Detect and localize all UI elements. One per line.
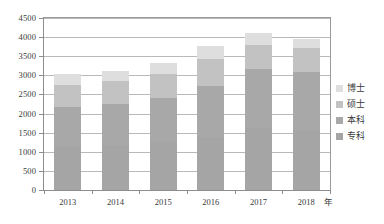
x-axis-unit-label: 年 (324, 197, 333, 207)
y-tick-label-3500: 3500 (19, 52, 36, 61)
legend-swatch-icon-硕士 (336, 101, 343, 108)
y-tick-label-1000: 1000 (19, 147, 36, 156)
legend-swatch-icon-本科 (336, 117, 343, 124)
x-tick-mark-1 (92, 190, 93, 194)
legend-label-博士: 博士 (347, 83, 365, 93)
x-tick-mark-2 (139, 190, 140, 194)
bar-group-2018[interactable] (293, 39, 320, 190)
y-tick-mark-2500 (39, 94, 43, 95)
y-tick-label-4000: 4000 (19, 33, 36, 42)
bar-segment-专科-2015[interactable] (150, 142, 177, 190)
x-tick-label-2013: 2013 (59, 197, 76, 207)
bar-segment-硕士-2014[interactable] (102, 81, 129, 103)
y-tick-mark-2000 (39, 114, 43, 115)
bar-segment-博士-2013[interactable] (54, 74, 81, 85)
x-tick-mark-5 (282, 190, 283, 194)
y-tick-label-2500: 2500 (19, 90, 36, 99)
bar-segment-专科-2018[interactable] (293, 130, 320, 190)
y-tick-mark-500 (39, 171, 43, 172)
bar-group-2014[interactable] (102, 71, 129, 190)
bar-segment-本科-2014[interactable] (102, 104, 129, 145)
y-tick-mark-4000 (39, 37, 43, 38)
legend-swatch-icon-专科 (336, 133, 343, 140)
legend: 博士硕士本科专科 (336, 80, 384, 144)
legend-item-博士[interactable]: 博士 (336, 80, 384, 96)
bar-segment-博士-2015[interactable] (150, 63, 177, 74)
bars-layer (44, 18, 330, 190)
y-tick-label-500: 500 (23, 166, 36, 175)
bar-group-2017[interactable] (245, 33, 272, 190)
y-tick-label-2000: 2000 (19, 109, 36, 118)
x-tick-mark-3 (187, 190, 188, 194)
y-tick-label-4500: 4500 (19, 14, 36, 23)
bar-segment-专科-2016[interactable] (197, 137, 224, 191)
legend-label-专科: 专科 (347, 131, 365, 141)
bar-segment-硕士-2015[interactable] (150, 74, 177, 98)
y-tick-mark-3500 (39, 56, 43, 57)
bar-segment-博士-2018[interactable] (293, 39, 320, 49)
bar-segment-本科-2017[interactable] (245, 69, 272, 128)
legend-swatch-icon-博士 (336, 85, 343, 92)
x-tick-mark-4 (235, 190, 236, 194)
x-tick-mark-6 (330, 190, 331, 194)
x-tick-label-2015: 2015 (155, 197, 172, 207)
stacked-bar-chart: 050010001500200025003000350040004500 201… (0, 0, 384, 224)
bar-segment-本科-2016[interactable] (197, 86, 224, 136)
legend-item-本科[interactable]: 本科 (336, 112, 384, 128)
x-tick-label-2016: 2016 (202, 197, 219, 207)
y-tick-mark-3000 (39, 75, 43, 76)
y-tick-label-3000: 3000 (19, 71, 36, 80)
bar-segment-博士-2017[interactable] (245, 33, 272, 45)
y-tick-mark-1000 (39, 152, 43, 153)
bar-group-2013[interactable] (54, 74, 81, 190)
bar-segment-博士-2016[interactable] (197, 46, 224, 58)
y-tick-mark-4500 (39, 18, 43, 19)
legend-item-专科[interactable]: 专科 (336, 128, 384, 144)
legend-label-本科: 本科 (347, 115, 365, 125)
bar-segment-专科-2014[interactable] (102, 145, 129, 190)
bar-segment-硕士-2017[interactable] (245, 45, 272, 69)
bar-segment-本科-2018[interactable] (293, 72, 320, 129)
bar-segment-博士-2014[interactable] (102, 71, 129, 82)
y-tick-mark-1500 (39, 133, 43, 134)
bar-segment-本科-2015[interactable] (150, 98, 177, 142)
bar-segment-本科-2013[interactable] (54, 107, 81, 146)
x-tick-label-2018: 2018 (298, 197, 315, 207)
x-tick-label-2017: 2017 (250, 197, 267, 207)
x-tick-mark-0 (44, 190, 45, 194)
bar-group-2016[interactable] (197, 46, 224, 190)
y-tick-label-1500: 1500 (19, 128, 36, 137)
x-axis: 201320142015201620172018 (0, 190, 384, 224)
bar-segment-专科-2017[interactable] (245, 128, 272, 190)
bar-segment-硕士-2018[interactable] (293, 48, 320, 72)
bar-group-2015[interactable] (150, 63, 177, 190)
x-tick-label-2014: 2014 (107, 197, 124, 207)
bar-segment-硕士-2013[interactable] (54, 85, 81, 107)
legend-label-硕士: 硕士 (347, 99, 365, 109)
bar-segment-专科-2013[interactable] (54, 146, 81, 190)
bar-segment-硕士-2016[interactable] (197, 59, 224, 87)
legend-item-硕士[interactable]: 硕士 (336, 96, 384, 112)
